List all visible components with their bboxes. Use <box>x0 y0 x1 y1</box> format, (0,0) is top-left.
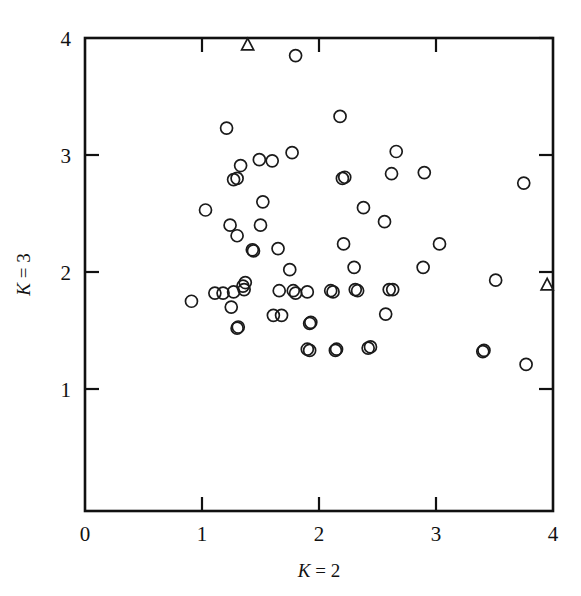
data-point-circle <box>379 216 391 228</box>
data-point-circle <box>286 147 298 159</box>
data-point-circle <box>200 204 212 216</box>
data-point-triangle <box>242 38 254 50</box>
data-point-circle <box>231 230 243 242</box>
data-point-circle <box>209 287 221 299</box>
x-tick-label: 4 <box>548 522 559 546</box>
y-tick-label: 2 <box>61 261 72 285</box>
data-point-circle <box>338 238 350 250</box>
data-point-circle <box>490 274 502 286</box>
y-tick-label: 4 <box>61 27 72 51</box>
data-point-circle <box>380 308 392 320</box>
data-point-circle <box>301 286 313 298</box>
data-point-circle <box>518 177 530 189</box>
data-point-circle <box>276 309 288 321</box>
data-point-circle <box>290 50 302 62</box>
x-tick-label: 1 <box>197 522 208 546</box>
data-point-circle <box>348 261 360 273</box>
data-point-circle <box>290 287 302 299</box>
data-point-circle <box>266 155 278 167</box>
data-point-circle <box>520 358 532 370</box>
data-point-circle <box>225 301 237 313</box>
data-point-circle <box>434 238 446 250</box>
data-point-circle <box>284 264 296 276</box>
data-point-circle <box>272 243 284 255</box>
x-axis-title: K = 2 <box>297 560 340 581</box>
svg-text:K = 2: K = 2 <box>297 560 340 581</box>
y-tick-label: 3 <box>61 144 72 168</box>
data-point-circle <box>417 261 429 273</box>
data-point-circle <box>253 154 265 166</box>
data-point-circle <box>255 219 267 231</box>
data-point-circle <box>257 196 269 208</box>
data-point-circle <box>235 160 247 172</box>
y-axis-title: K = 3 <box>13 253 34 296</box>
data-point-circle <box>185 295 197 307</box>
x-tick-label: 0 <box>80 522 91 546</box>
y-tick-label: 1 <box>61 378 72 402</box>
scatter-plot-figure: 012341234K = 2K = 3 <box>0 0 581 596</box>
data-point-triangle <box>541 278 553 290</box>
data-point-circle <box>357 202 369 214</box>
data-point-circle <box>386 168 398 180</box>
data-point-circle <box>221 122 233 134</box>
svg-text:K = 3: K = 3 <box>13 253 34 296</box>
x-tick-label: 2 <box>314 522 325 546</box>
data-point-circle <box>224 219 236 231</box>
plot-canvas: 012341234K = 2K = 3 <box>0 0 581 596</box>
data-point-circle <box>334 110 346 122</box>
axes-frame <box>85 38 553 511</box>
data-point-circle <box>390 145 402 157</box>
data-point-circle <box>273 285 285 297</box>
data-point-circle <box>418 167 430 179</box>
x-tick-label: 3 <box>431 522 442 546</box>
